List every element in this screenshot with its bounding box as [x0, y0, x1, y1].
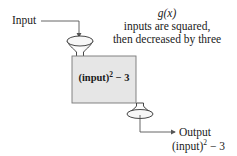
function-name: g(x): [137, 7, 197, 20]
input-arrow-icon: [41, 21, 79, 37]
description-line-2: then decreased by three: [100, 33, 234, 46]
input-label: Input: [12, 14, 36, 27]
output-expr-base: (input): [172, 140, 203, 152]
function-expression: (input)2 − 3: [72, 71, 136, 84]
output-expr-rest: − 3: [207, 140, 225, 152]
function-machine-diagram: Input g(x) inputs are squared, then decr…: [0, 0, 237, 156]
input-funnel-icon: [67, 36, 93, 57]
expr-rest: − 3: [113, 72, 129, 83]
description-line-1: inputs are squared,: [107, 20, 227, 33]
output-expression: (input)2 − 3: [172, 140, 225, 153]
expr-base: (input): [78, 72, 109, 83]
output-label: Output: [179, 126, 211, 139]
